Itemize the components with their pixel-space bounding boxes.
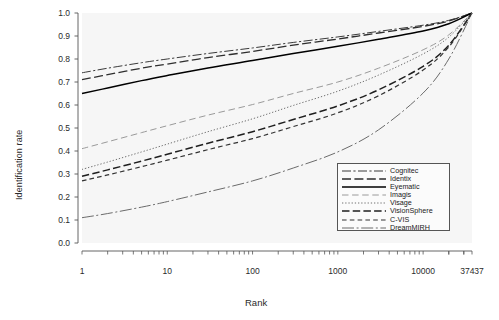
legend-line-swatch (342, 224, 386, 232)
y-axis-title: Identification rate (14, 130, 24, 200)
legend-item-list: CognitecIdentixEyematicImagisVisageVisio… (338, 164, 449, 232)
legend-line-swatch (342, 216, 386, 224)
x-tick-label: 1000 (315, 266, 361, 276)
y-tick-label: 0.2 (44, 192, 70, 202)
legend-label: DreamMIRH (390, 224, 430, 232)
chart-figure: Identification rate Rank 0.00.10.20.30.4… (0, 0, 499, 320)
y-axis (75, 13, 79, 243)
legend-line-swatch (342, 191, 386, 199)
legend-item: DreamMIRH (338, 224, 449, 232)
chart-legend: CognitecIdentixEyematicImagisVisageVisio… (337, 163, 450, 231)
y-tick-label: 0.4 (44, 146, 70, 156)
y-tick-label: 0.3 (44, 169, 70, 179)
y-tick-label: 0.8 (44, 54, 70, 64)
legend-line-swatch (342, 183, 386, 191)
y-tick-label: 0.6 (44, 100, 70, 110)
y-tick-label: 1.0 (44, 8, 70, 18)
y-tick-label: 0.5 (44, 123, 70, 133)
y-tick-label: 0.0 (44, 238, 70, 248)
x-tick-label: 37437 (449, 266, 495, 276)
legend-line-swatch (342, 167, 386, 175)
x-axis (82, 251, 472, 255)
legend-line-swatch (342, 199, 386, 207)
legend-line-swatch (342, 207, 386, 215)
y-tick-label: 0.1 (44, 215, 70, 225)
y-tick-label: 0.7 (44, 77, 70, 87)
x-axis-title: Rank (245, 297, 267, 308)
y-tick-label: 0.9 (44, 31, 70, 41)
legend-line-swatch (342, 175, 386, 183)
x-tick-label: 10 (144, 266, 190, 276)
x-tick-label: 10000 (400, 266, 446, 276)
x-tick-label: 1 (59, 266, 105, 276)
x-tick-label: 100 (230, 266, 276, 276)
